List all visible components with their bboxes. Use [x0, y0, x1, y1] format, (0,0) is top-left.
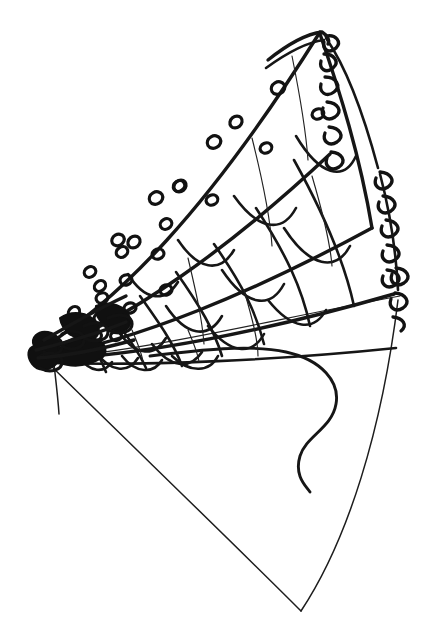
lace-shawl-drawing: Netted lace shawl, fan of knotted mesh r… [0, 0, 432, 641]
figure-canvas: Netted Lace Shawl Diagram Netted lace sh… [0, 0, 432, 641]
